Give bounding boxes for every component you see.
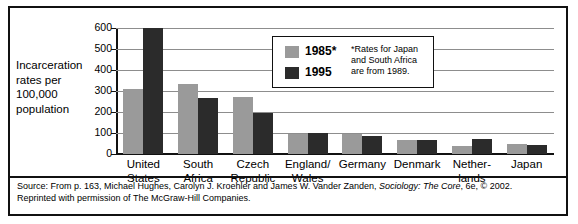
bar-1985-2 (233, 97, 253, 154)
bar-1995-4 (362, 136, 382, 154)
bar-1995-3 (308, 133, 328, 154)
bar-1995-7 (527, 145, 547, 154)
y-axis-tick-label: 300 (78, 84, 112, 96)
figure-container: Incarceration rates per 100,000 populati… (8, 6, 568, 216)
legend-label-1985: 1985* (305, 44, 336, 58)
source-line1-post: , 6e, © 2002. (461, 181, 513, 191)
y-axis-tick-labels: 0100200300400500600 (72, 28, 112, 154)
x-axis-category-label: Denmark (390, 158, 445, 172)
y-axis-tick-mark (111, 28, 116, 29)
gridline (116, 28, 554, 29)
bar-1985-4 (342, 134, 362, 154)
y-axis-tick-mark (111, 91, 116, 92)
y-axis-tick-label: 200 (78, 105, 112, 117)
y-axis-tick-label: 100 (78, 126, 112, 138)
source-attribution: Source: From p. 163, Michael Hughes, Car… (17, 181, 563, 204)
source-title-italic: Sociology: The Core (379, 181, 461, 191)
bar-1985-7 (507, 144, 527, 155)
y-axis-tick-mark (111, 112, 116, 113)
bar-1995-0 (143, 28, 163, 154)
bar-1985-5 (397, 140, 417, 154)
y-axis-tick-label: 500 (78, 42, 112, 54)
bar-1985-0 (123, 89, 143, 154)
y-axis-tick-mark (111, 49, 116, 50)
legend-swatch-1985 (285, 46, 299, 58)
source-divider (10, 176, 566, 178)
legend-footnote: *Rates for Japan and South Africa are fr… (351, 44, 429, 77)
bar-1985-6 (452, 146, 472, 154)
x-axis-category-label: Japan (499, 158, 554, 172)
y-axis-tick-label: 0 (78, 147, 112, 159)
bar-1985-1 (178, 84, 198, 154)
chart-region: Incarceration rates per 100,000 populati… (10, 8, 566, 176)
y-axis-tick-label: 600 (78, 21, 112, 33)
legend-swatch-1995 (285, 67, 299, 79)
legend-label-1995: 1995 (305, 65, 332, 79)
bar-1995-1 (198, 98, 218, 154)
source-line2: Reprinted with permission of The McGraw-… (17, 193, 250, 203)
y-axis-tick-mark (111, 133, 116, 134)
bar-1995-6 (472, 139, 492, 154)
y-axis-tick-mark (111, 154, 116, 155)
bar-1995-5 (417, 140, 437, 154)
y-axis-tick-label: 400 (78, 63, 112, 75)
y-axis-tick-mark (111, 70, 116, 71)
x-axis-category-label: Germany (335, 158, 390, 172)
bar-1985-3 (288, 134, 308, 154)
source-line1-pre: Source: From p. 163, Michael Hughes, Car… (17, 181, 379, 191)
chart-legend: 1985* 1995 *Rates for Japan and South Af… (272, 36, 434, 88)
bar-1995-2 (253, 113, 273, 154)
